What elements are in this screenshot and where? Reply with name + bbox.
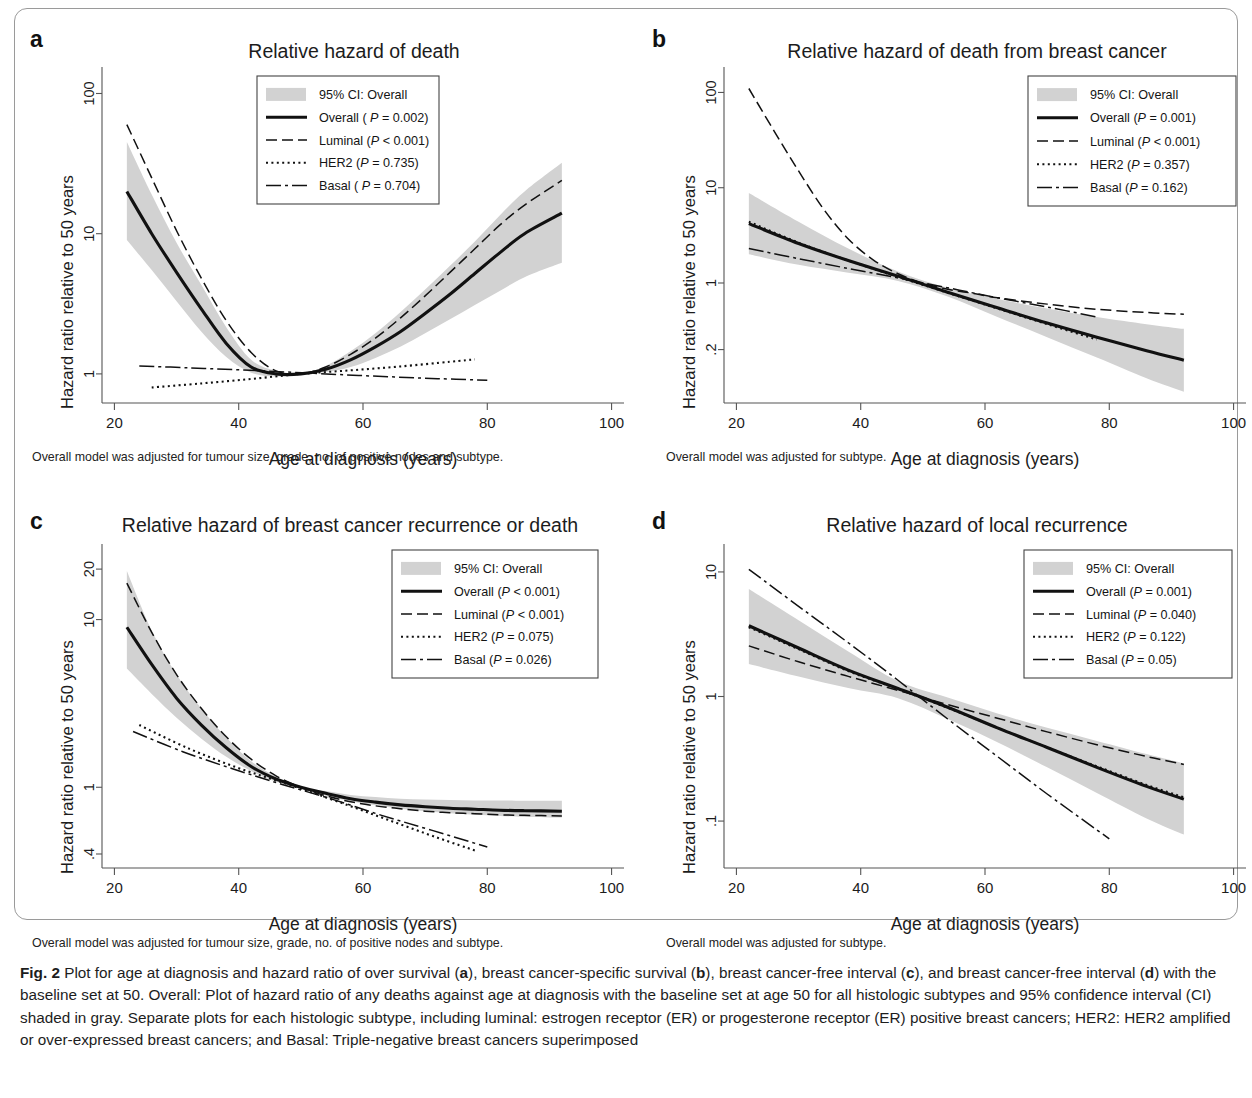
x-tick-label: 40 (230, 879, 247, 896)
legend-label-ci: 95% CI: Overall (1086, 562, 1174, 576)
x-tick-label: 20 (106, 414, 123, 431)
legend-label-basal: Basal (P = 0.026) (454, 653, 552, 667)
x-tick-label: 80 (479, 414, 496, 431)
chart-panel-d: dRelative hazard of local recurrenceHaza… (646, 508, 1246, 958)
caption-text: ), and breast cancer-free interval ( (914, 964, 1144, 981)
caption-bold-token: b (696, 964, 705, 981)
legend-label-ci: 95% CI: Overall (1090, 88, 1178, 102)
plot-area-c: .4110202040608010095% CI: OverallOverall… (24, 508, 624, 918)
legend-label-overall: Overall (P = 0.001) (1090, 111, 1196, 125)
y-tick-label: 10 (703, 564, 719, 580)
x-tick-label: 20 (106, 879, 123, 896)
legend-label-overall: Overall ( P = 0.002) (319, 111, 429, 125)
y-tick-label: 10 (81, 612, 97, 628)
x-tick-label: 60 (355, 879, 372, 896)
x-tick-label: 20 (728, 414, 745, 431)
legend-ci-swatch (401, 562, 441, 575)
x-tick-label: 80 (1101, 414, 1118, 431)
legend-label-her2: HER2 (P = 0.735) (319, 156, 419, 170)
caption-bold-token: Fig. 2 (20, 964, 60, 981)
y-tick-label: 100 (703, 80, 719, 104)
legend-label-luminal: Luminal (P < 0.001) (319, 134, 429, 148)
chart-panel-b: bRelative hazard of death from breast ca… (646, 18, 1246, 473)
legend-label-her2: HER2 (P = 0.075) (454, 630, 554, 644)
chart-panel-c: cRelative hazard of breast cancer recurr… (24, 508, 624, 958)
x-tick-label: 20 (728, 879, 745, 896)
legend-ci-swatch (1037, 88, 1077, 101)
plot-area-d: .11102040608010095% CI: OverallOverall (… (646, 508, 1246, 918)
panel-footnote-b: Overall model was adjusted for subtype. (666, 450, 886, 464)
legend-ci-swatch (1033, 562, 1073, 575)
chart-panel-a: aRelative hazard of deathHazard ratio re… (24, 18, 624, 473)
y-tick-label: 10 (703, 180, 719, 196)
x-tick-label: 80 (479, 879, 496, 896)
legend-label-her2: HER2 (P = 0.357) (1090, 158, 1190, 172)
caption-text: ), breast cancer-free interval ( (705, 964, 906, 981)
panel-footnote-c: Overall model was adjusted for tumour si… (32, 936, 503, 950)
x-tick-label: 40 (230, 414, 247, 431)
panel-footnote-a: Overall model was adjusted for tumour si… (32, 450, 503, 464)
x-tick-label: 60 (355, 414, 372, 431)
x-tick-label: 100 (1221, 414, 1246, 431)
y-tick-label: 100 (81, 81, 97, 105)
legend-label-overall: Overall (P = 0.001) (1086, 585, 1192, 599)
y-tick-label: 1 (703, 279, 719, 287)
series-line-basal (749, 249, 1097, 317)
series-line-her2 (152, 359, 475, 387)
legend-label-luminal: Luminal (P < 0.001) (1090, 135, 1200, 149)
legend-label-her2: HER2 (P = 0.122) (1086, 630, 1186, 644)
caption-bold-token: a (460, 964, 469, 981)
x-tick-label: 100 (599, 414, 624, 431)
legend-label-basal: Basal ( P = 0.704) (319, 179, 420, 193)
x-tick-label: 40 (852, 879, 869, 896)
y-tick-label: .2 (703, 344, 719, 356)
legend-label-basal: Basal (P = 0.05) (1086, 653, 1177, 667)
x-tick-label: 100 (599, 879, 624, 896)
legend-label-luminal: Luminal (P = 0.040) (1086, 608, 1196, 622)
caption-bold-token: d (1145, 964, 1154, 981)
x-tick-label: 60 (977, 879, 994, 896)
plot-area-b: .21101002040608010095% CI: OverallOveral… (646, 18, 1246, 433)
x-tick-label: 80 (1101, 879, 1118, 896)
legend-label-ci: 95% CI: Overall (319, 88, 407, 102)
caption-text: Plot for age at diagnosis and hazard rat… (60, 964, 460, 981)
y-tick-label: .4 (81, 848, 97, 860)
y-tick-label: .1 (703, 815, 719, 827)
plot-area-a: 1101002040608010095% CI: OverallOverall … (24, 18, 624, 433)
x-tick-label: 40 (852, 414, 869, 431)
x-tick-label: 100 (1221, 879, 1246, 896)
legend-label-ci: 95% CI: Overall (454, 562, 542, 576)
figure-caption: Fig. 2 Plot for age at diagnosis and haz… (20, 962, 1238, 1052)
y-tick-label: 1 (81, 783, 97, 791)
legend-label-overall: Overall (P < 0.001) (454, 585, 560, 599)
caption-text: ), breast cancer-specific survival ( (468, 964, 696, 981)
x-tick-label: 60 (977, 414, 994, 431)
legend-label-luminal: Luminal (P < 0.001) (454, 608, 564, 622)
panel-footnote-d: Overall model was adjusted for subtype. (666, 936, 886, 950)
legend-label-basal: Basal (P = 0.162) (1090, 181, 1188, 195)
legend-ci-swatch (266, 88, 306, 101)
y-tick-label: 1 (81, 370, 97, 378)
y-tick-label: 20 (81, 561, 97, 577)
y-tick-label: 1 (703, 692, 719, 700)
y-tick-label: 10 (81, 226, 97, 242)
